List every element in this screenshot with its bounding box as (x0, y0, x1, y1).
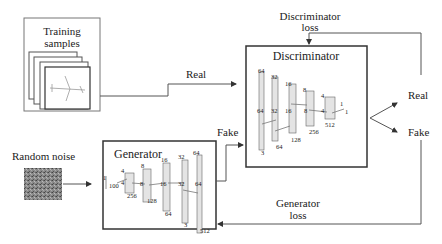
disc-l2-top: 32 (271, 73, 278, 80)
disc-l4-top: 8 (303, 86, 306, 93)
generator-title: Generator (114, 147, 162, 161)
disc-l1-bottom: 3 (261, 149, 264, 156)
disc-l1-mid: 64 (257, 107, 264, 114)
fake-arrow: Fake (216, 126, 243, 181)
gen-l2-bottom: 256 (127, 192, 138, 199)
discriminator-block: Discriminator 64 64 3 32 32 64 16 16 128… (246, 46, 367, 167)
output-real-label: Real (408, 89, 428, 101)
output-fake-label: Fake (408, 126, 430, 138)
gen-loss-label-2: loss (289, 209, 306, 221)
gen-l4-mid: 16 (160, 180, 167, 187)
gen-loss-label-1: Generator (276, 197, 320, 209)
gen-l5-bottom: 3 (184, 221, 187, 228)
random-noise-block: Random noise (12, 150, 91, 200)
training-label-1: Training (43, 25, 81, 37)
generator-block: Generator 1 100 4 4 256 8 8 128 16 16 64… (103, 141, 216, 234)
random-noise-label: Random noise (12, 150, 75, 162)
gen-l5-mid: 32 (178, 180, 185, 187)
gen-l3-mid: 8 (140, 180, 143, 187)
disc-l3-top: 16 (285, 80, 292, 87)
discriminator-title: Discriminator (273, 49, 340, 63)
noise-image (24, 168, 62, 200)
gen-l1-mid: 100 (109, 182, 119, 189)
gen-l4-top: 16 (161, 156, 168, 163)
disc-loss-label-2: loss (301, 21, 318, 33)
real-arrow: Real (100, 68, 236, 96)
disc-l1-top: 64 (258, 67, 265, 74)
disc-l4-bottom: 256 (309, 128, 320, 135)
gen-l6-mid: 64 (195, 180, 202, 187)
training-label-2: samples (44, 37, 79, 49)
gen-l4-bottom: 64 (165, 210, 172, 217)
fake-edge-label: Fake (217, 126, 239, 138)
gen-l1-top: 1 (103, 174, 106, 181)
disc-l6-top: 1 (340, 100, 343, 107)
disc-l2-bottom: 64 (276, 143, 283, 150)
disc-l2-mid: 32 (271, 107, 278, 114)
disc-l3-bottom: 128 (291, 136, 301, 143)
real-edge-label: Real (186, 68, 206, 80)
gen-l3-top: 8 (141, 162, 144, 169)
training-samples-block: Training samples (24, 18, 100, 111)
gen-l6-top: 64 (193, 149, 200, 156)
gen-l5-top: 32 (178, 153, 185, 160)
disc-l5-bottom: 512 (325, 121, 335, 128)
gen-l6-bottom: 512 (200, 227, 210, 234)
output-branches: Real Fake (370, 89, 430, 138)
gen-l3-bottom: 128 (147, 197, 157, 204)
disc-l3-mid: 16 (285, 107, 292, 114)
disc-l4-mid: 8 (304, 107, 307, 114)
disc-l6-mid: 1 (345, 108, 348, 115)
